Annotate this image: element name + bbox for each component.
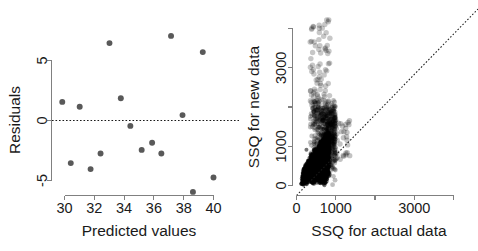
ssq-y-ticklabel-1000: 1000 — [273, 130, 289, 162]
ssq-data-point — [308, 88, 313, 93]
residual-x-axis-title: Predicted values — [82, 222, 197, 239]
figure-container: 5 0 -5 30 32 34 36 38 40 Residuals Predi… — [0, 0, 478, 251]
ssq-data-point — [328, 150, 333, 155]
residual-data-point — [139, 147, 145, 153]
ssq-data-point — [318, 162, 323, 167]
residual-x-ticklabel-30: 30 — [56, 200, 72, 216]
ssq-data-point — [330, 139, 335, 144]
ssq-data-point — [311, 182, 315, 186]
ssq-data-point — [319, 169, 324, 174]
ssq-y-axis-title: SSQ for new data — [245, 45, 262, 168]
ssq-data-point — [347, 118, 352, 123]
residual-data-point — [107, 40, 113, 46]
residual-data-point — [190, 189, 196, 195]
residual-data-point — [149, 140, 155, 146]
ssq-data-point — [311, 67, 316, 72]
ssq-data-point — [323, 83, 328, 88]
ssq-data-point — [343, 126, 348, 131]
ssq-data-point — [314, 127, 319, 132]
residual-x-ticklabel-32: 32 — [86, 200, 102, 216]
residual-data-point — [168, 33, 174, 39]
ssq-data-point — [308, 39, 313, 44]
residual-y-ticklabel-0: 0 — [34, 116, 50, 124]
ssq-data-point — [312, 133, 317, 138]
ssq-point-group — [299, 17, 352, 187]
ssq-data-point — [326, 19, 331, 24]
ssq-data-point — [319, 102, 324, 107]
ssq-data-point — [317, 70, 322, 75]
ssq-data-point — [317, 30, 322, 35]
ssq-data-point — [309, 102, 314, 107]
ssq-data-point — [317, 43, 322, 48]
residual-point-group — [59, 33, 216, 195]
ssq-data-point — [317, 61, 322, 66]
ssq-data-point — [327, 93, 332, 98]
ssq-data-point — [312, 114, 317, 119]
ssq-data-point — [318, 83, 323, 88]
residual-x-ticklabel-34: 34 — [116, 200, 132, 216]
ssq-data-point — [311, 121, 316, 126]
ssq-data-point — [326, 61, 331, 66]
ssq-data-point — [317, 74, 322, 79]
ssq-data-point — [323, 45, 328, 50]
ssq-data-point — [304, 180, 308, 184]
ssq-data-point — [326, 98, 331, 103]
ssq-data-point — [313, 147, 318, 152]
residual-data-point — [88, 166, 94, 172]
ssq-data-point — [332, 104, 337, 109]
ssq-data-point — [308, 56, 313, 61]
ssq-data-point — [327, 121, 332, 126]
ssq-data-point — [316, 95, 321, 100]
ssq-data-point — [318, 113, 323, 118]
residual-data-point — [211, 175, 217, 181]
ssq-data-point — [344, 134, 349, 139]
ssq-data-point — [323, 154, 328, 159]
ssq-plot-panel: 0 1000 3000 0 1000 3000 SSQ for new data… — [239, 0, 478, 251]
residual-data-point — [77, 104, 83, 110]
ssq-data-point — [318, 181, 322, 185]
ssq-plot-svg: 0 1000 3000 0 1000 3000 SSQ for new data… — [239, 0, 478, 251]
residual-data-point — [158, 151, 164, 157]
ssq-data-point — [304, 148, 308, 152]
residual-data-point — [59, 99, 65, 105]
ssq-data-point — [321, 33, 326, 38]
residual-data-point — [118, 95, 124, 101]
ssq-y-ticklabel-0: 0 — [273, 181, 289, 189]
ssq-data-point — [317, 152, 322, 157]
ssq-x-ticklabel-0: 0 — [292, 200, 300, 216]
ssq-data-point — [331, 174, 336, 179]
residual-y-axis-title: Residuals — [6, 86, 23, 154]
ssq-data-point — [327, 36, 332, 41]
ssq-y-ticklabel-3000: 3000 — [273, 52, 289, 84]
ssq-data-point — [323, 88, 328, 93]
ssq-data-point — [331, 109, 336, 114]
ssq-data-point — [311, 152, 316, 157]
residual-plot-svg: 5 0 -5 30 32 34 36 38 40 Residuals Predi… — [0, 0, 239, 251]
residual-data-point — [127, 123, 133, 129]
ssq-data-point — [323, 67, 328, 72]
ssq-data-point — [318, 108, 323, 113]
ssq-data-point — [322, 144, 327, 149]
ssq-x-ticklabel-1000: 1000 — [320, 200, 352, 216]
ssq-data-point — [322, 94, 327, 99]
ssq-data-point — [303, 166, 307, 170]
residual-data-point — [180, 112, 186, 118]
ssq-data-point — [311, 24, 316, 29]
residual-x-ticklabel-36: 36 — [146, 200, 162, 216]
ssq-data-point — [326, 106, 331, 111]
ssq-data-point — [325, 114, 330, 119]
ssq-data-point — [325, 51, 330, 56]
ssq-data-point — [327, 172, 332, 177]
residual-data-point — [200, 49, 206, 55]
ssq-data-point — [310, 50, 315, 55]
ssq-data-point — [299, 182, 303, 186]
ssq-data-point — [310, 165, 315, 170]
residual-y-ticklabel-neg5: -5 — [34, 174, 50, 187]
residual-data-point — [68, 160, 74, 166]
ssq-data-point — [322, 183, 326, 187]
ssq-data-point — [310, 176, 315, 181]
residual-y-ticklabel-5: 5 — [34, 56, 50, 64]
ssq-data-point — [318, 122, 323, 127]
residual-data-point — [98, 151, 104, 157]
ssq-data-point — [317, 117, 322, 122]
